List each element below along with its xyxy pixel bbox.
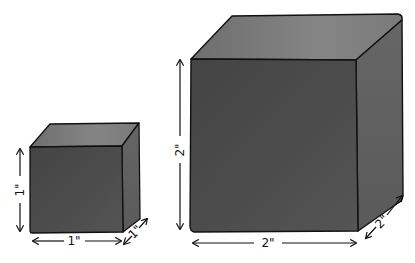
large-cube-width-dimension: 2" [193, 236, 356, 250]
large-cube: 2" 2" 2" [173, 14, 404, 250]
large-cube-front-face [190, 59, 358, 232]
small-cube-height-label: 1" [13, 183, 27, 196]
large-cube-height-dimension: 2" [173, 60, 187, 229]
cube-illustration: 1" 1" 1" 2" 2" [0, 0, 415, 263]
small-cube-front-face [30, 146, 123, 233]
large-cube-height-label: 2" [173, 143, 187, 156]
small-cube-height-dimension: 1" [13, 149, 27, 231]
small-cube-width-dimension: 1" [33, 234, 121, 248]
small-cube: 1" 1" 1" [13, 123, 148, 248]
small-cube-top-face [30, 123, 139, 147]
small-cube-width-label: 1" [67, 234, 80, 248]
large-cube-width-label: 2" [261, 236, 274, 250]
